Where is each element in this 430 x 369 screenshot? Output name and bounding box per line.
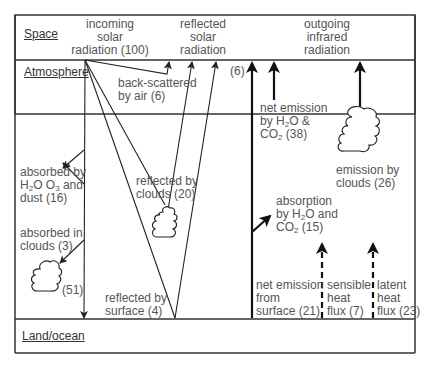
backscatter-label: back-scattered by air (6) [118, 77, 197, 103]
zone-label-space: Space [24, 28, 58, 41]
reflected-surface-label: reflected by surface (4) [105, 292, 167, 318]
incoming-solar-label: incoming solar radiation (100) [62, 18, 158, 57]
absorbed-clouds-label: absorbed in clouds (3) [20, 227, 83, 253]
zone-label-atmosphere: Atmosphere [24, 66, 89, 79]
net-emission-h2o-label: net emission by H2O & CO2 (38) [260, 102, 327, 141]
window-label: (6) [230, 65, 245, 78]
cloud-icon [31, 261, 61, 291]
backscatter-arrow [85, 60, 169, 74]
reflected-solar-label: reflected solar radiation [168, 18, 238, 57]
latent-heat-label: latent heat flux (23) [377, 279, 420, 318]
sensible-heat-label: sensible heat flux (7) [327, 279, 371, 318]
outgoing-infrared-label: outgoing infrared radiation [292, 18, 362, 57]
net-surface-label: net emission from surface (21) [256, 279, 323, 318]
absorption-label: absorption by H2O and CO2 (15) [276, 195, 338, 234]
reflected-clouds-label: reflected by clouds (20) [136, 175, 198, 201]
absorbed-h2o-label: absorbed by H2O O3 and dust (16) [20, 166, 86, 205]
absorption-arrow [252, 216, 270, 232]
emission-clouds-label: emission by clouds (26) [336, 164, 399, 190]
surface-direct-label: (51) [62, 284, 83, 297]
cloud-icon [152, 207, 177, 237]
zone-label-land: Land/ocean [22, 330, 85, 343]
